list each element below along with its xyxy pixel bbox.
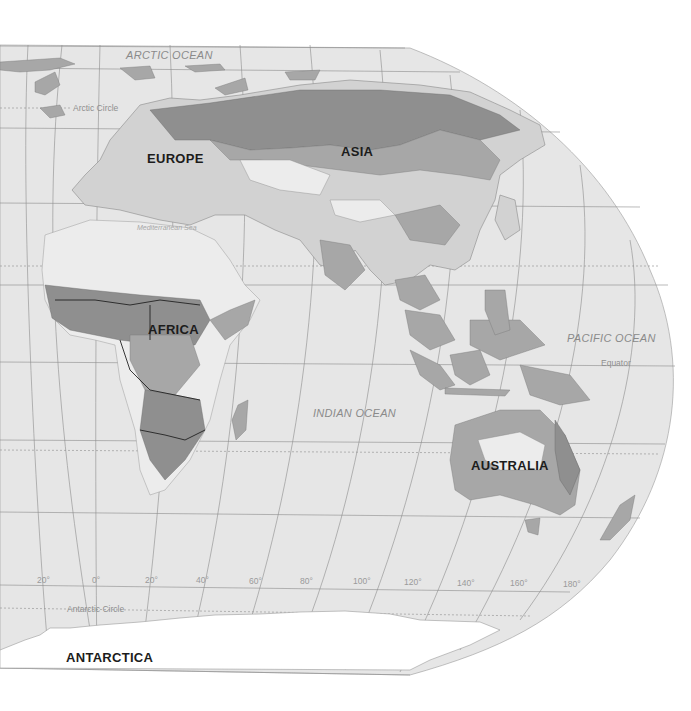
longitude-label: 160° [510,578,528,588]
label-arctic-ocean: ARCTIC OCEAN [125,49,213,61]
label-europe: EUROPE [147,151,204,166]
longitude-label: 40° [196,575,209,585]
longitude-label: 0° [92,575,100,585]
longitude-label: 100° [353,576,371,586]
label-africa: AFRICA [148,322,199,337]
longitude-label: 140° [457,578,475,588]
label-equator: Equator [601,358,631,368]
longitude-label: 60° [249,576,262,586]
longitude-label: 20° [145,575,158,585]
longitude-label: 120° [404,577,422,587]
world-map: ARCTIC OCEAN INDIAN OCEAN PACIFIC OCEAN … [0,0,691,711]
longitude-label: 80° [300,576,313,586]
label-australia: AUSTRALIA [471,458,549,473]
label-arctic-circle: Arctic Circle [73,103,119,113]
longitude-label: 180° [563,579,581,589]
label-asia: ASIA [341,144,374,159]
label-antarctic-circle: Antarctic Circle [67,604,124,614]
label-antarctica: ANTARCTICA [66,650,154,665]
label-mediterranean-sea: Mediterranean Sea [137,224,197,231]
label-pacific-ocean: PACIFIC OCEAN [567,332,656,344]
label-indian-ocean: INDIAN OCEAN [313,407,396,419]
longitude-label: 20° [37,575,50,585]
